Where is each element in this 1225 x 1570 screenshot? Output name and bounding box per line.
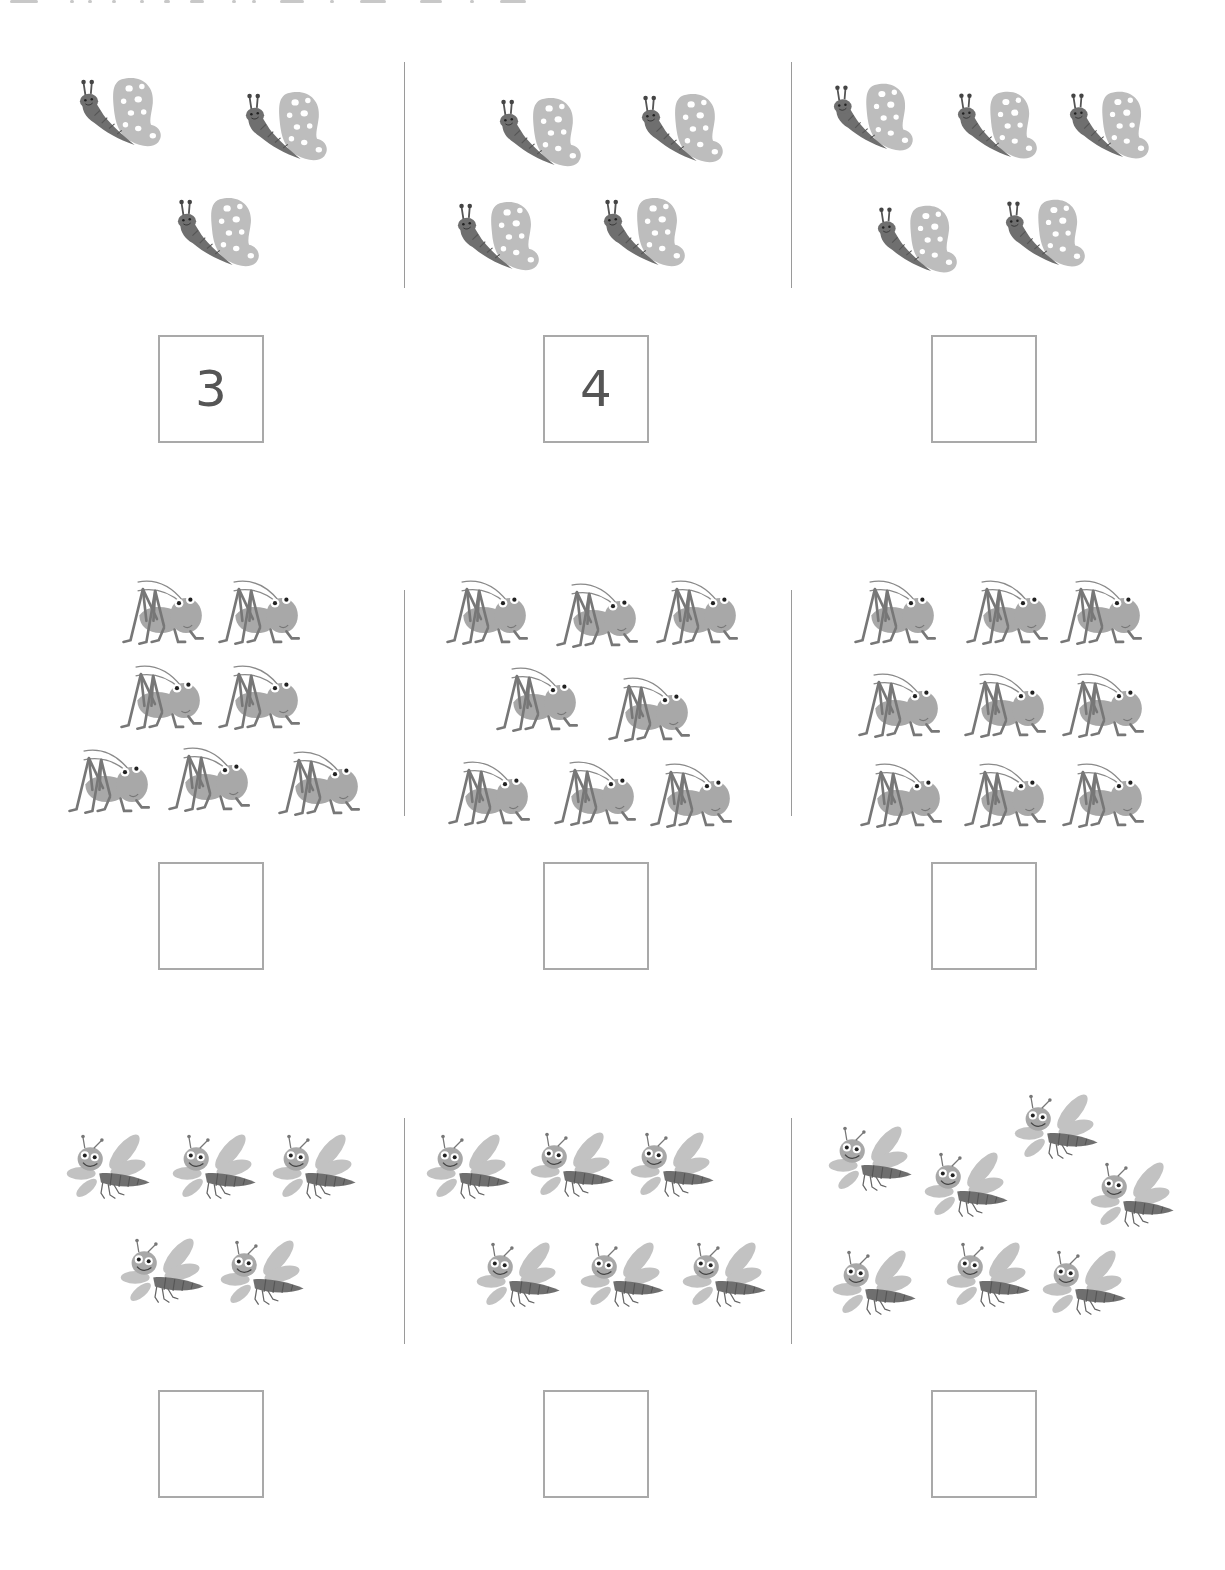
grasshopper-icon (654, 575, 742, 649)
answer-box[interactable] (158, 1390, 264, 1498)
dragonfly-icon (424, 1132, 516, 1204)
dragonfly-icon (474, 1240, 566, 1312)
dragonfly-icon (826, 1124, 918, 1196)
butterfly-icon (872, 200, 962, 280)
column-divider (791, 1118, 792, 1344)
answer-box[interactable] (543, 862, 649, 970)
dragonfly-icon (528, 1130, 620, 1202)
butterfly-icon (1064, 86, 1154, 166)
grasshopper-icon (1060, 668, 1148, 742)
grasshopper-icon (554, 578, 642, 652)
grasshopper-icon (120, 575, 208, 649)
dragonfly-icon (1088, 1160, 1180, 1232)
grasshopper-icon (1060, 758, 1148, 832)
dragonfly-icon (170, 1132, 262, 1204)
butterfly-icon (74, 72, 166, 154)
butterfly-icon (494, 92, 586, 174)
grasshopper-icon (962, 758, 1050, 832)
butterfly-icon (636, 88, 728, 170)
grasshopper-icon (166, 742, 254, 816)
grasshopper-icon (66, 744, 154, 818)
butterfly-icon (1000, 194, 1090, 274)
butterfly-icon (952, 86, 1042, 166)
dragonfly-icon (1040, 1248, 1132, 1320)
grasshopper-icon (446, 756, 534, 830)
dragonfly-icon (944, 1240, 1036, 1312)
dragonfly-icon (218, 1238, 310, 1310)
dragonfly-icon (680, 1240, 772, 1312)
dragonfly-icon (270, 1132, 362, 1204)
butterfly-icon (598, 192, 690, 274)
dragonfly-icon (64, 1132, 156, 1204)
column-divider (791, 590, 792, 816)
butterfly-icon (240, 86, 332, 168)
column-divider (404, 62, 405, 288)
dragonfly-icon (922, 1150, 1014, 1222)
butterfly-icon (172, 192, 264, 274)
column-divider (404, 590, 405, 816)
answer-box[interactable] (543, 1390, 649, 1498)
cropped-header-line (0, 0, 820, 6)
butterfly-icon (452, 196, 544, 278)
grasshopper-icon (1058, 575, 1146, 649)
grasshopper-icon (552, 756, 640, 830)
grasshopper-icon (444, 575, 532, 649)
grasshopper-icon (118, 660, 206, 734)
answer-box[interactable]: 3 (158, 335, 264, 443)
grasshopper-icon (852, 575, 940, 649)
dragonfly-icon (118, 1236, 210, 1308)
grasshopper-icon (858, 758, 946, 832)
butterfly-icon (828, 78, 918, 158)
dragonfly-icon (628, 1130, 720, 1202)
grasshopper-icon (964, 575, 1052, 649)
dragonfly-icon (1012, 1092, 1104, 1164)
grasshopper-icon (276, 746, 364, 820)
grasshopper-icon (856, 668, 944, 742)
answer-box[interactable] (158, 862, 264, 970)
answer-box[interactable] (931, 335, 1037, 443)
grasshopper-icon (648, 758, 736, 832)
grasshopper-icon (494, 662, 582, 736)
column-divider (791, 62, 792, 288)
answer-box[interactable]: 4 (543, 335, 649, 443)
column-divider (404, 1118, 405, 1344)
answer-box[interactable] (931, 862, 1037, 970)
grasshopper-icon (216, 575, 304, 649)
dragonfly-icon (830, 1248, 922, 1320)
grasshopper-icon (962, 668, 1050, 742)
answer-box[interactable] (931, 1390, 1037, 1498)
grasshopper-icon (216, 660, 304, 734)
grasshopper-icon (606, 672, 694, 746)
dragonfly-icon (578, 1240, 670, 1312)
